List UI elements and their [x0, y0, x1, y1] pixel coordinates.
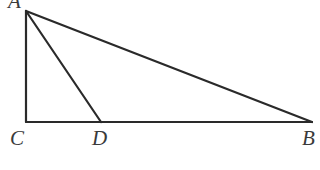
triangle-diagram: A C D B	[0, 0, 320, 170]
label-c: C	[10, 126, 25, 150]
segment-ab	[26, 11, 312, 122]
label-b: B	[302, 126, 315, 150]
label-a: A	[6, 0, 21, 13]
label-d: D	[91, 126, 107, 150]
segment-ad	[26, 11, 101, 122]
